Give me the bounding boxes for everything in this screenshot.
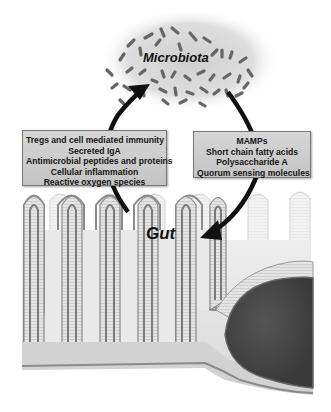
host-response-item: Tregs and cell mediated immunity — [26, 135, 163, 146]
microbial-signal-item: Quorum sensing molecules — [197, 168, 307, 179]
microbial-signal-item: MAMPs — [197, 136, 307, 147]
microbial-signals-box: MAMPs Short chain fatty acids Polysaccha… — [193, 131, 311, 178]
microbial-signal-item: Polysaccharide A — [197, 157, 307, 168]
host-response-item: Secreted IgA — [26, 146, 163, 157]
host-response-box: Tregs and cell mediated immunity Secrete… — [22, 130, 167, 186]
microbial-signal-item: Short chain fatty acids — [197, 147, 307, 158]
gut-label: Gut — [146, 224, 175, 244]
host-response-item: Antimicrobial peptides and proteins — [26, 156, 163, 167]
host-response-item: Cellular inflammation — [26, 167, 163, 178]
gut-tissue — [22, 192, 313, 395]
host-response-item: Reactive oxygen species — [26, 177, 163, 188]
microbiota-label: Microbiota — [143, 50, 209, 65]
